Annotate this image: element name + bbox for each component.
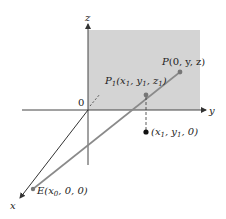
yz-plane [88,30,200,110]
point-p1 [144,93,149,98]
point-p-label: P(0, y, z) [161,56,205,67]
perspective-projection-diagram: z y x 0 P(0, y, z) P1(x1, y1, z1) E(x0, … [0,0,226,219]
y-axis-label: y [208,105,215,116]
projection-point-label: (x1, y1, 0) [151,126,198,139]
origin-label: 0 [78,97,84,108]
point-p [178,70,183,75]
x-axis-label: x [10,200,16,211]
point-e-label: E(x0, 0, 0) [36,185,88,198]
z-axis-label: z [84,12,91,23]
point-e [31,187,35,191]
point-projection [143,129,148,134]
